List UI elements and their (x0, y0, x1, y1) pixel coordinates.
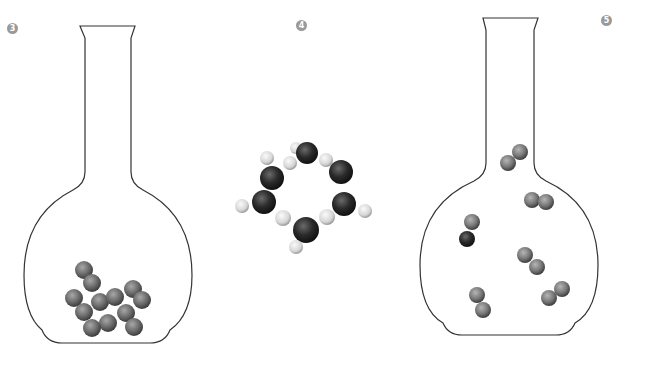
flask-3 (24, 26, 192, 343)
liquid-particles (65, 261, 151, 337)
ring-molecule-4 (235, 142, 372, 254)
flask-5 (420, 18, 598, 335)
gas-molecules (459, 144, 570, 318)
diagram-canvas (0, 0, 654, 367)
